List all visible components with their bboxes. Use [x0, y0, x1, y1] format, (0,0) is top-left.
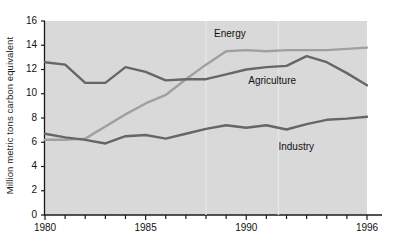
x-tick-label: 1990: [226, 222, 266, 233]
y-tick-label: 12: [15, 63, 37, 74]
y-tick-label: 14: [15, 39, 37, 50]
x-tick-label: 1985: [126, 222, 166, 233]
y-tick-label: 10: [15, 87, 37, 98]
series-label-agriculture: Agriculture: [248, 75, 296, 86]
x-axis-ticks: [45, 215, 367, 220]
series-label-industry: Industry: [278, 141, 314, 152]
y-tick-label: 6: [15, 136, 37, 147]
y-tick-label: 2: [15, 184, 37, 195]
y-tick-label: 8: [15, 112, 37, 123]
y-tick-label: 0: [15, 209, 37, 220]
x-tick-label: 1996: [347, 222, 387, 233]
chart-plot-svg: [0, 0, 394, 235]
x-tick-label: 1980: [25, 222, 65, 233]
chart-container: Million metric tons carbon equivalent 16…: [0, 0, 394, 235]
y-tick-label: 4: [15, 160, 37, 171]
series-label-energy: Energy: [214, 28, 246, 39]
y-tick-label: 16: [15, 15, 37, 26]
